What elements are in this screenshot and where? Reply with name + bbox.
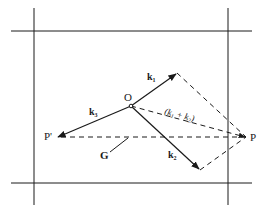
- origin-point: [129, 104, 133, 108]
- label-k1: k1: [147, 71, 156, 83]
- label-P-prime: P': [44, 130, 52, 142]
- label-k1-plus-k2: (k1 + k2): [163, 106, 195, 124]
- label-k3: k3: [89, 106, 98, 118]
- label-G: G: [100, 149, 109, 161]
- dashed-k2-to-P: [200, 137, 246, 170]
- label-k2: k2: [168, 149, 177, 161]
- G-pointer-line: [110, 138, 128, 152]
- label-k1-sub: 1: [153, 77, 156, 83]
- label-k3-sub: 3: [95, 112, 98, 118]
- vector-diagram: O P P' G k1 k2 k3 (k1 + k2): [0, 0, 266, 210]
- label-P: P: [250, 131, 256, 143]
- label-O: O: [124, 91, 132, 103]
- label-k2-sub: 2: [174, 155, 177, 161]
